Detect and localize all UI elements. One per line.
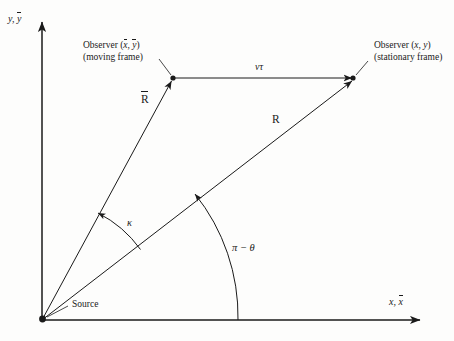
source-label: Source <box>72 299 98 311</box>
stationary-observer-point <box>350 75 355 80</box>
moving-observer-x-bar: x <box>123 40 127 52</box>
x-axis-label-bar: x <box>398 296 402 309</box>
source-point <box>39 316 46 323</box>
moving-observer-label-line2: (moving frame) <box>83 52 143 64</box>
pi-minus-theta-angle-label: π − θ <box>232 241 255 254</box>
pi-minus-theta-arc <box>195 194 238 320</box>
stationary-observer-label-line1: Observer (x, y) <box>374 40 442 52</box>
r-vector <box>42 81 352 320</box>
stationary-observer-leader-line <box>356 61 368 75</box>
x-axis-label: x, x <box>389 296 403 309</box>
stationary-observer-prefix: Observer ( <box>374 40 414 50</box>
displacement-label: vτ <box>255 61 263 74</box>
moving-observer-point <box>170 75 175 80</box>
y-axis-label-bar: y <box>17 13 21 26</box>
stationary-observer-suffix: ) <box>428 40 431 50</box>
y-axis-label: y, y <box>8 13 21 26</box>
moving-observer-label-line1: Observer (x, y) <box>83 40 143 52</box>
moving-observer-leader-line <box>159 59 171 75</box>
r-bar-label-text: R <box>141 92 149 106</box>
moving-observer-prefix: Observer ( <box>83 40 123 50</box>
r-bar-label: R <box>141 92 149 106</box>
moving-observer-suffix: ) <box>137 40 140 50</box>
stationary-observer-label-line2: (stationary frame) <box>374 52 442 64</box>
r-label: R <box>272 112 280 126</box>
stationary-observer-label: Observer (x, y) (stationary frame) <box>374 40 442 64</box>
physics-diagram: y, y x, x Observer (x, y) (moving frame)… <box>0 0 454 341</box>
moving-observer-y-bar: y <box>132 40 136 52</box>
kappa-angle-label: κ <box>127 216 132 229</box>
r-bar-vector <box>42 81 172 320</box>
kappa-arc <box>98 213 141 250</box>
moving-observer-label: Observer (x, y) (moving frame) <box>83 40 143 64</box>
